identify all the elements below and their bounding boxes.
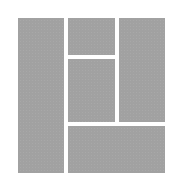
layout-grid-diagram	[0, 0, 176, 179]
tile-middle-lower	[68, 59, 115, 122]
tile-left-column	[18, 18, 64, 173]
tile-bottom-wide	[68, 126, 165, 173]
tile-middle-top	[68, 18, 115, 55]
tile-right-column	[119, 18, 165, 122]
